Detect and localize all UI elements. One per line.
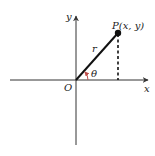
angle-label: θ (91, 68, 97, 79)
y-axis-label: y (65, 11, 72, 22)
angle-arc (85, 72, 88, 80)
origin-label: O (64, 82, 72, 93)
x-axis-label: x (144, 83, 150, 94)
polar-coordinate-diagram: y x O P(x, y) r θ (0, 0, 155, 156)
point-label: P(x, y) (111, 20, 144, 31)
radius-label: r (92, 43, 98, 54)
